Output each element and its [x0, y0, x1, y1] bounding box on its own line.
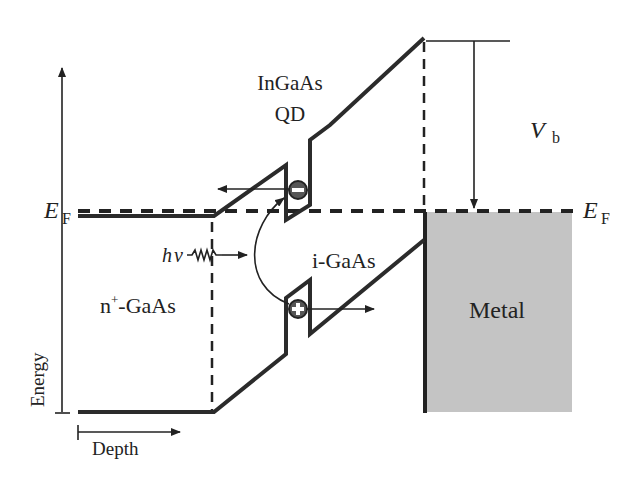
- ef-right-label-sub: F: [601, 210, 610, 227]
- ef-left-label: E: [43, 197, 59, 223]
- excitation-arrow: [255, 198, 289, 304]
- band-diagram: InGaAs QD V b E F E F h ν n+-GaAs i-GaAs…: [0, 0, 635, 481]
- qd-label-line2: QD: [275, 102, 305, 126]
- photon-label-h: h: [162, 244, 172, 266]
- electron: [289, 181, 307, 199]
- qd-label-line1: InGaAs: [257, 71, 322, 95]
- energy-axis-label: Energy: [27, 352, 48, 407]
- ef-left-label-sub: F: [62, 210, 71, 227]
- hole: [289, 300, 307, 318]
- metal-label: Metal: [469, 297, 525, 323]
- depth-axis-label: Depth: [92, 438, 139, 459]
- vb-label-sub: b: [552, 129, 560, 146]
- i-region-label: i-GaAs: [312, 248, 376, 273]
- n-region-label: n+-GaAs: [100, 292, 176, 318]
- ef-right-label: E: [582, 197, 598, 223]
- conduction-band: [78, 38, 424, 220]
- photon-label-nu: ν: [174, 244, 183, 266]
- photon-wave: [187, 250, 222, 260]
- vb-label: V: [530, 117, 547, 143]
